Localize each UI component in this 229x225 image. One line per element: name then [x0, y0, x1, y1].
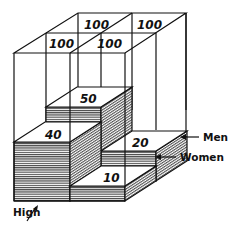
value-top-back-low: 100 [137, 18, 162, 32]
value-top-front-low: 100 [97, 37, 122, 51]
value-top-back-high: 100 [84, 18, 109, 32]
block-diagram: 50 20 40 10 100 100 100 100 [0, 0, 229, 225]
value-high-women: 40 [44, 128, 62, 142]
value-low-men: 20 [132, 136, 149, 150]
label-high-income: High [13, 205, 40, 221]
svg-text:Women: Women [180, 151, 224, 163]
value-low-women: 10 [103, 171, 120, 185]
value-high-men: 50 [80, 92, 97, 106]
svg-text:Men: Men [203, 131, 228, 143]
svg-text:High: High [13, 206, 40, 218]
value-top-front-high: 100 [49, 37, 74, 51]
